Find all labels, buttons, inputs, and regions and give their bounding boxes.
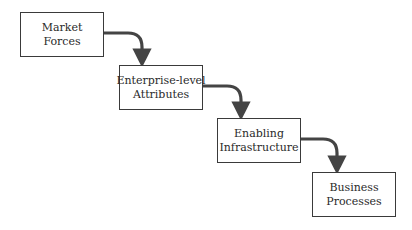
arrow-enabling-to-business [301,139,337,165]
box-label-line2: Processes [326,195,381,209]
box-label-line1: Enterprise-level [116,74,205,88]
box-enterprise-level-attributes: Enterprise-level Attributes [119,65,203,110]
box-label-line2: Infrastructure [219,141,298,155]
box-label-line1: Business [326,181,381,195]
box-market-forces: Market Forces [20,12,104,57]
box-business-processes: Business Processes [312,172,396,217]
diagram-canvas: Market Forces Enterprise-level Attribute… [0,0,412,230]
box-enabling-infrastructure: Enabling Infrastructure [217,118,301,163]
box-label-line1: Market [42,21,83,35]
box-label-line2: Attributes [116,88,205,102]
box-label-line2: Forces [42,35,83,49]
arrow-market-to-enterprise [104,33,142,58]
box-label-line1: Enabling [219,127,298,141]
arrow-enterprise-to-enabling [203,86,241,111]
